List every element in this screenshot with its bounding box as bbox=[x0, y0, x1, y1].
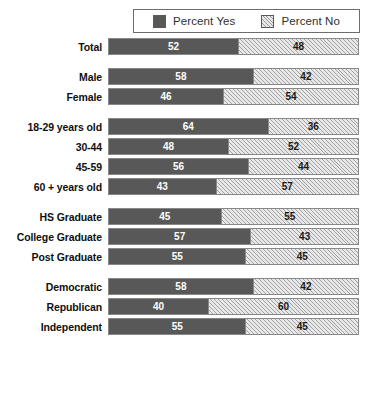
stacked-bar[interactable]: 5248 bbox=[108, 38, 359, 55]
bar-row: Total5248 bbox=[0, 38, 376, 55]
stacked-bar[interactable]: 4852 bbox=[108, 138, 359, 155]
chart-plot-area: Total5248Male5842Female465418-29 years o… bbox=[0, 38, 376, 348]
bar-segment-no: 36 bbox=[268, 119, 358, 134]
chart-legend: Percent Yes Percent No bbox=[133, 9, 360, 33]
bar-row-label: Post Graduate bbox=[0, 251, 108, 263]
bar-segment-yes: 55 bbox=[109, 249, 245, 264]
bar-segment-yes: 48 bbox=[109, 139, 228, 154]
bar-segment-yes: 40 bbox=[109, 299, 208, 314]
stacked-bar[interactable]: 4654 bbox=[108, 88, 359, 105]
bar-row-label: 45-59 bbox=[0, 161, 108, 173]
bar-segment-yes: 52 bbox=[109, 39, 238, 54]
bar-group-age: 18-29 years old643630-44485245-59564460 … bbox=[0, 118, 376, 195]
bar-row-label: 30-44 bbox=[0, 141, 108, 153]
legend-entry-percent-no[interactable]: Percent No bbox=[261, 15, 340, 28]
bar-row-label: Total bbox=[0, 41, 108, 53]
bar-row: College Graduate5743 bbox=[0, 228, 376, 245]
stacked-bar[interactable]: 5545 bbox=[108, 318, 359, 335]
stacked-bar[interactable]: 4060 bbox=[108, 298, 359, 315]
bar-segment-yes: 58 bbox=[109, 279, 253, 294]
bar-segment-no: 43 bbox=[250, 229, 358, 244]
bar-row: Independent5545 bbox=[0, 318, 376, 335]
bar-group-overall: Total5248 bbox=[0, 38, 376, 55]
bar-row: Post Graduate5545 bbox=[0, 248, 376, 265]
stacked-bar[interactable]: 5644 bbox=[108, 158, 359, 175]
bar-row-label: Republican bbox=[0, 301, 108, 313]
legend-label-no: Percent No bbox=[281, 15, 340, 27]
legend-swatch-no-icon bbox=[261, 15, 274, 28]
bar-segment-yes: 46 bbox=[109, 89, 223, 104]
bar-row-label: College Graduate bbox=[0, 231, 108, 243]
stacked-bar[interactable]: 5743 bbox=[108, 228, 359, 245]
bar-segment-yes: 58 bbox=[109, 69, 253, 84]
bar-segment-yes: 56 bbox=[109, 159, 248, 174]
bar-row-label: HS Graduate bbox=[0, 211, 108, 223]
bar-row: Male5842 bbox=[0, 68, 376, 85]
bar-segment-no: 45 bbox=[245, 319, 358, 334]
bar-segment-no: 42 bbox=[253, 279, 358, 294]
bar-row: Female4654 bbox=[0, 88, 376, 105]
bar-segment-no: 44 bbox=[248, 159, 358, 174]
stacked-bar[interactable]: 5842 bbox=[108, 68, 359, 85]
bar-row-label: Male bbox=[0, 71, 108, 83]
bar-segment-yes: 64 bbox=[109, 119, 268, 134]
bar-segment-no: 42 bbox=[253, 69, 358, 84]
bar-segment-yes: 45 bbox=[109, 209, 221, 224]
legend-swatch-yes-icon bbox=[153, 15, 166, 28]
bar-row: 45-595644 bbox=[0, 158, 376, 175]
stacked-bar[interactable]: 5545 bbox=[108, 248, 359, 265]
bar-row: 30-444852 bbox=[0, 138, 376, 155]
bar-row-label: 60 + years old bbox=[0, 181, 108, 193]
bar-row: 18-29 years old6436 bbox=[0, 118, 376, 135]
bar-group-education: HS Graduate4555College Graduate5743Post … bbox=[0, 208, 376, 265]
bar-segment-yes: 55 bbox=[109, 319, 245, 334]
bar-segment-no: 55 bbox=[221, 209, 358, 224]
bar-row-label: 18-29 years old bbox=[0, 121, 108, 133]
bar-segment-no: 52 bbox=[228, 139, 358, 154]
bar-segment-yes: 57 bbox=[109, 229, 250, 244]
bar-group-gender: Male5842Female4654 bbox=[0, 68, 376, 105]
bar-row: HS Graduate4555 bbox=[0, 208, 376, 225]
bar-segment-no: 48 bbox=[238, 39, 358, 54]
bar-segment-yes: 43 bbox=[109, 179, 216, 194]
stacked-bar[interactable]: 4357 bbox=[108, 178, 359, 195]
bar-segment-no: 45 bbox=[245, 249, 358, 264]
bar-row-label: Democratic bbox=[0, 281, 108, 293]
bar-row: 60 + years old4357 bbox=[0, 178, 376, 195]
bar-segment-no: 57 bbox=[216, 179, 358, 194]
bar-row: Republican4060 bbox=[0, 298, 376, 315]
bar-segment-no: 54 bbox=[223, 89, 358, 104]
legend-label-yes: Percent Yes bbox=[173, 15, 235, 27]
stacked-bar[interactable]: 5842 bbox=[108, 278, 359, 295]
bar-row: Democratic5842 bbox=[0, 278, 376, 295]
stacked-bar[interactable]: 6436 bbox=[108, 118, 359, 135]
legend-entry-percent-yes[interactable]: Percent Yes bbox=[153, 15, 235, 28]
stacked-bar[interactable]: 4555 bbox=[108, 208, 359, 225]
bar-row-label: Female bbox=[0, 91, 108, 103]
bar-group-party: Democratic5842Republican4060Independent5… bbox=[0, 278, 376, 335]
bar-row-label: Independent bbox=[0, 321, 108, 333]
bar-segment-no: 60 bbox=[208, 299, 358, 314]
